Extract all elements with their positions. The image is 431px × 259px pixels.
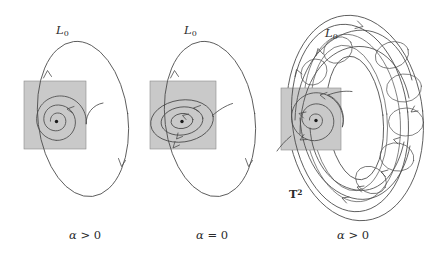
- caption-left: α > 0: [40, 228, 130, 242]
- cycle-label-left-letter: L: [56, 23, 64, 37]
- torus-label: T2: [289, 189, 302, 200]
- figure-root: L0 L0 L0 T2 α > 0 α = 0 α > 0: [0, 0, 431, 259]
- flow-arrow-right-lower: [381, 170, 388, 177]
- torus-label-letter: T: [289, 188, 297, 201]
- caption-middle-relation: = 0: [207, 228, 228, 242]
- caption-right: α > 0: [308, 228, 398, 242]
- meridian-circle-4: [377, 140, 416, 174]
- panel-middle-graphic: [148, 36, 264, 202]
- caption-right-relation: > 0: [348, 228, 369, 242]
- flow-arrow-left-cycle-lower: [119, 159, 126, 167]
- meridian-circle-3: [388, 107, 424, 136]
- cycle-label-middle-subscript: 0: [192, 29, 197, 38]
- equilibrium-point-right: [314, 119, 317, 122]
- caption-middle-alpha: α: [196, 228, 204, 242]
- meridian-circle-2: [385, 72, 423, 104]
- cross-section-square-left: [24, 81, 86, 149]
- spiral-arm-left: [86, 103, 103, 124]
- caption-right-alpha: α: [337, 228, 345, 242]
- equilibrium-point-left: [55, 120, 58, 123]
- cycle-label-left-subscript: 0: [64, 29, 69, 38]
- caption-middle: α = 0: [167, 228, 257, 242]
- cycle-label-middle-letter: L: [184, 23, 192, 37]
- flow-arrow-left-cycle-upper: [44, 71, 52, 79]
- flow-arrow-middle-cycle-lower: [246, 159, 253, 167]
- flow-arrow-right-top: [355, 21, 363, 29]
- caption-left-alpha: α: [69, 228, 77, 242]
- caption-left-relation: > 0: [80, 228, 101, 242]
- cycle-label-middle: L0: [184, 25, 197, 38]
- cycle-label-right: L0: [325, 28, 338, 41]
- cycle-label-right-subscript: 0: [333, 32, 338, 41]
- panel-left-graphic: [24, 36, 137, 202]
- figure-canvas: [0, 0, 431, 259]
- cycle-label-left: L0: [56, 25, 69, 38]
- flow-arrow-middle-cycle-upper: [171, 71, 179, 79]
- equilibrium-point-middle: [180, 120, 183, 123]
- cycle-label-right-letter: L: [325, 26, 333, 40]
- torus-label-exponent: 2: [297, 188, 302, 197]
